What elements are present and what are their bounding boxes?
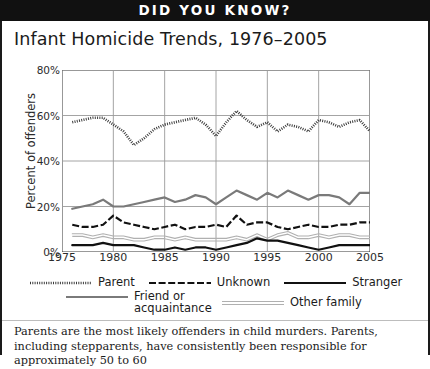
chart-legend: ParentUnknownStranger Friend or acquaint… [0,272,430,320]
page-title: Infant Homicide Trends, 1976–2005 [14,29,328,49]
legend-label: Friend or acquaintance [134,290,208,314]
legend-item[interactable]: Unknown [149,276,270,288]
legend-swatch [149,277,211,289]
legend-swatch [284,277,346,289]
legend-row-2: Friend or acquaintanceOther family [0,292,430,312]
y-tick-label: 60% [20,110,60,122]
x-tick-label: 1985 [145,251,185,264]
legend-item[interactable]: Friend or acquaintance [66,290,208,314]
y-tick-label: 40% [20,155,60,167]
x-tick-label: 1995 [247,251,287,264]
chart: Percent of offenders 0%20%40%60%80% 1975… [0,60,430,275]
banner-bar: DID YOU KNOW? [0,0,430,21]
legend-swatch [222,297,284,309]
legend-swatch-dashed [149,277,211,289]
legend-swatch-solid-gray [66,291,128,303]
x-tick-label: 1975 [42,251,82,264]
divider [2,320,428,321]
legend-label: Parent [98,276,135,288]
x-tick-label: 1980 [93,251,133,264]
legend-item[interactable]: Other family [222,296,362,308]
legend-row-1: ParentUnknownStranger [0,272,430,292]
legend-swatch-solid-thick [284,277,346,289]
legend-item[interactable]: Parent [30,276,135,288]
legend-label: Other family [290,296,362,308]
legend-item[interactable]: Stranger [284,276,402,288]
x-tick-label: 2005 [350,251,390,264]
y-tick-label: 20% [20,201,60,213]
caption-text: Parents are the most likely offenders in… [14,325,416,369]
legend-swatch [30,277,92,289]
legend-swatch-dotted [30,277,92,289]
x-tick-label: 1990 [196,251,236,264]
legend-label: Stranger [352,276,402,288]
x-tick-label: 2000 [299,251,339,264]
banner-title: DID YOU KNOW? [0,0,430,21]
legend-swatch-solid-light [222,297,284,309]
y-tick-label: 80% [20,64,60,76]
y-axis-ticks: 0%20%40%60%80% [18,60,60,250]
legend-swatch [66,291,128,303]
x-axis-ticks: 1975198019851990199520002005 [0,251,430,271]
legend-label: Unknown [217,276,270,288]
plot-area [62,70,370,252]
